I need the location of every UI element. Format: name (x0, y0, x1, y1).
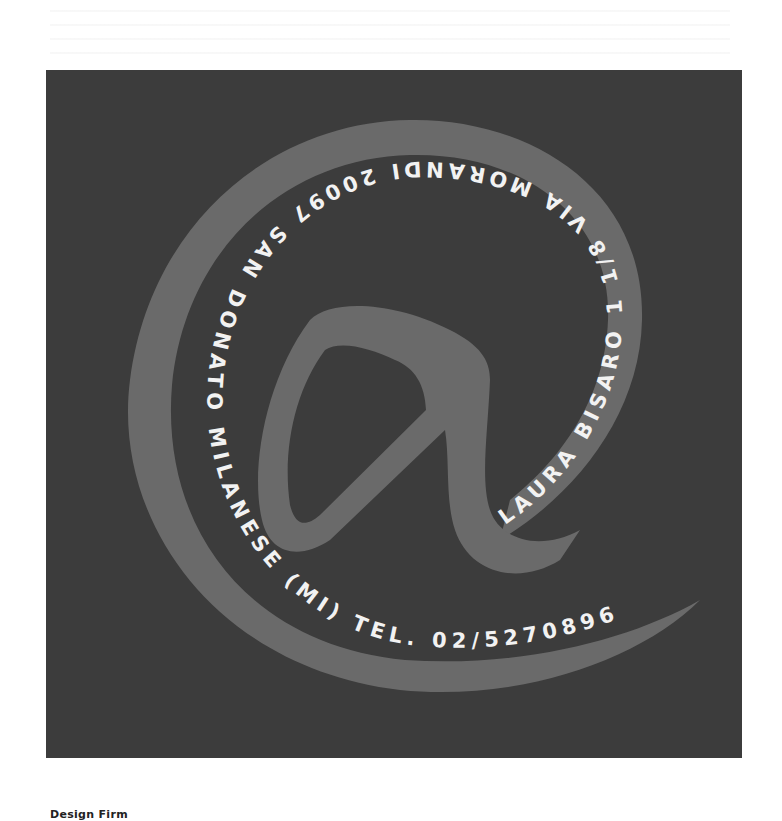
bleed-through-text (50, 10, 730, 60)
at-sign-inner-a-stroke (258, 306, 580, 573)
logo-curved-textpath: LAURA BISARO 1 1/8 VIA MORANDI 20097 SAN… (202, 157, 627, 653)
logo-curved-text: LAURA BISARO 1 1/8 VIA MORANDI 20097 SAN… (202, 157, 627, 653)
logo-panel: LAURA BISARO 1 1/8 VIA MORANDI 20097 SAN… (46, 70, 742, 758)
caption-design-firm: Design Firm (50, 808, 128, 821)
at-sign-logo-icon: LAURA BISARO 1 1/8 VIA MORANDI 20097 SAN… (46, 70, 742, 758)
